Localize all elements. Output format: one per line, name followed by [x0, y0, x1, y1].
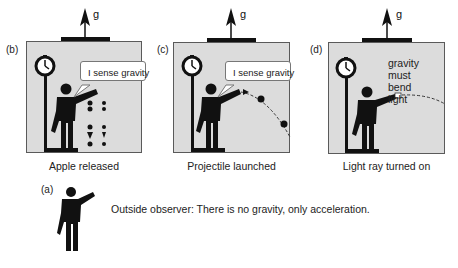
g-label: g	[240, 8, 246, 20]
observer-statement: Outside observer: There is no gravity, o…	[111, 203, 370, 215]
thought-text: gravity must bend light	[388, 57, 419, 105]
projectile-ball-icon	[258, 96, 265, 103]
speech-bubble: I sense gravity	[225, 61, 291, 81]
up-arrow-icon	[222, 6, 252, 42]
g-label: g	[93, 8, 99, 20]
person-icon	[51, 84, 98, 150]
trajectory-path	[241, 92, 290, 137]
person-icon	[196, 84, 241, 150]
panel-b-scene	[26, 41, 142, 153]
panel-c-scene	[173, 42, 290, 153]
speech-bubble: I sense gravity	[80, 61, 146, 81]
projectile-ball-icon	[281, 121, 288, 128]
panel-c-tag: (c)	[157, 44, 169, 55]
speech-text: I sense gravity	[233, 67, 294, 78]
thought-line-2: bend light	[388, 81, 419, 105]
speech-text: I sense gravity	[88, 67, 149, 78]
observer-person-icon	[56, 187, 102, 255]
panel-c-caption: Projectile launched	[173, 160, 290, 172]
panel-b-caption: Apple released	[26, 160, 142, 172]
up-arrow-icon	[378, 6, 408, 42]
panel-b-tag: (b)	[6, 44, 18, 55]
observer-tag: (a)	[41, 184, 53, 195]
g-label: g	[396, 8, 402, 20]
panel-d-tag: (d)	[310, 44, 322, 55]
panel-d-caption: Light ray turned on	[328, 160, 445, 172]
panel-d-scene	[328, 42, 445, 154]
falling-apples-icon	[87, 101, 106, 147]
thought-line-1: gravity must	[388, 57, 419, 81]
